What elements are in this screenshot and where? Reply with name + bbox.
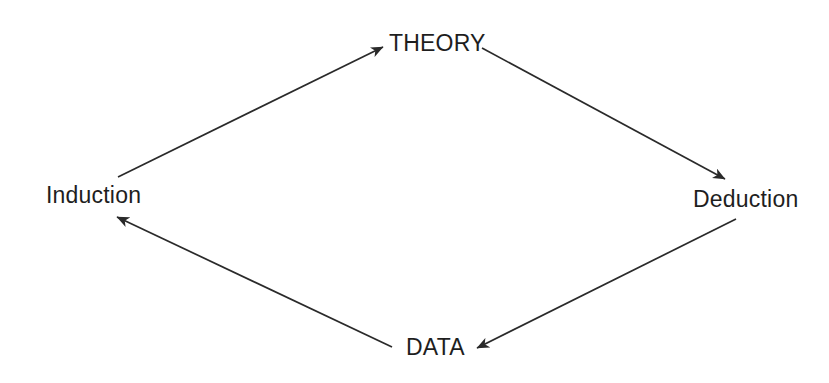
arrow-induction-to-theory (118, 47, 383, 177)
arrow-theory-to-deduction (482, 48, 725, 179)
node-label-data: DATA (406, 336, 465, 359)
node-label-deduction: Deduction (693, 188, 798, 211)
science-cycle-diagram: THEORY Deduction DATA Induction (0, 0, 829, 383)
arrow-deduction-to-data (477, 219, 736, 348)
arrow-data-to-induction (117, 217, 392, 347)
node-label-induction: Induction (46, 184, 141, 207)
node-label-theory: THEORY (389, 32, 486, 55)
